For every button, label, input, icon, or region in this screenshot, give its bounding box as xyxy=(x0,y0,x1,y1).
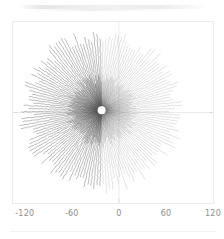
top-edge-artifact-2 xyxy=(30,9,180,11)
x-tick-label: -60 xyxy=(65,209,79,218)
plot-panel xyxy=(12,21,214,204)
x-tick-label: 60 xyxy=(161,209,172,218)
bottom-divider xyxy=(10,231,216,232)
x-tick-label: 120 xyxy=(205,209,221,218)
x-tick-label: 0 xyxy=(116,209,121,218)
x-tick-label: -120 xyxy=(15,209,34,218)
starburst-plot xyxy=(13,22,213,203)
top-edge-artifact xyxy=(18,5,208,9)
figure-root: -120 -60 0 60 120 xyxy=(0,0,224,239)
x-axis-tick-labels: -120 -60 0 60 120 xyxy=(12,209,214,221)
center-hole xyxy=(98,106,106,114)
